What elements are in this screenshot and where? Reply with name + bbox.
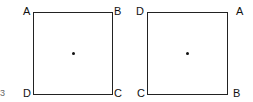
square-2-center-dot (186, 52, 189, 55)
square-1-corner-bottom-left: D (23, 88, 31, 99)
square-1-corner-top-right: B (114, 6, 121, 17)
square-2-corner-bottom-left: C (137, 88, 145, 99)
square-1-center-dot (72, 52, 75, 55)
stray-mark: 3 (0, 88, 5, 99)
square-2-corner-top-left: D (136, 6, 144, 17)
square-1-corner-bottom-right: C (114, 88, 122, 99)
square-2-corner-bottom-right: B (233, 88, 240, 99)
square-1-corner-top-left: A (23, 6, 30, 17)
square-2-corner-top-right: A (236, 6, 243, 17)
